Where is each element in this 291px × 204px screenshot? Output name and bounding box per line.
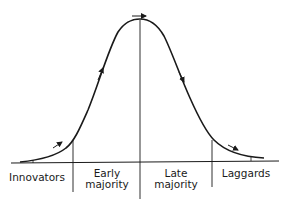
arrow-icon [53, 142, 62, 148]
label-innovators: Innovators [6, 172, 68, 183]
arrow-icon [228, 145, 238, 150]
label-laggards: Laggards [215, 168, 277, 179]
bell-curve [20, 19, 264, 162]
baseline-axis [11, 161, 279, 163]
arrow-icon [179, 72, 184, 82]
label-early-majority: Early majority [76, 168, 138, 190]
label-late-majority: Late majority [145, 168, 207, 190]
adoption-curve-diagram: Innovators Early majority Late majority … [0, 0, 291, 204]
